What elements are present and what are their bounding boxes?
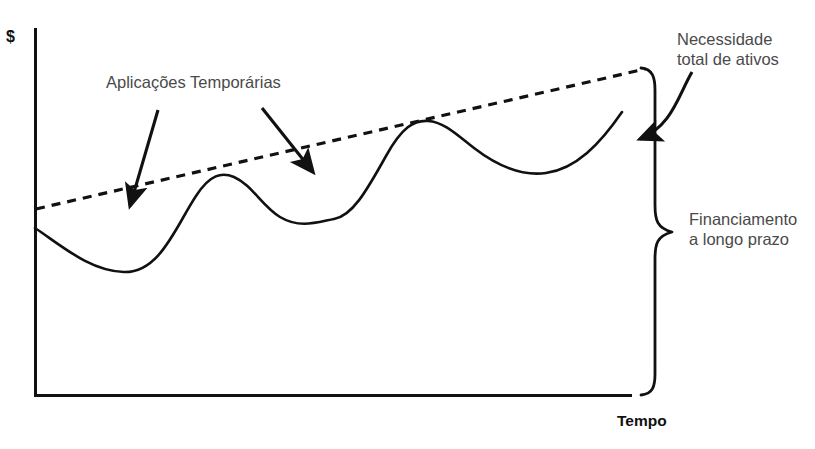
- temporary-applications-curve: [35, 112, 622, 272]
- x-axis-label: Tempo: [617, 411, 667, 431]
- total-asset-need-line-1: Necessidade: [677, 30, 772, 48]
- long-term-financing-line-1: Financiamento: [689, 210, 797, 228]
- y-axis-label: $: [6, 27, 15, 47]
- asset-financing-diagram: $ Aplicações Temporárias Necessidadetota…: [0, 0, 815, 449]
- annotation-temporary-applications: Aplicações Temporárias: [106, 72, 281, 92]
- total-asset-need-line-2: total de ativos: [677, 50, 779, 68]
- annotation-total-asset-need: Necessidadetotal de ativos: [677, 29, 779, 69]
- annotation-long-term-financing: Financiamentoa longo prazo: [689, 209, 797, 249]
- long-term-financing-line-2: a longo prazo: [689, 230, 789, 248]
- annotation-arrows: [130, 72, 692, 206]
